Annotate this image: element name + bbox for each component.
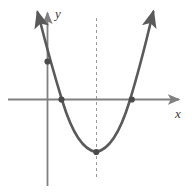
y-axis-label: y (53, 6, 61, 21)
graph-canvas: y x (0, 0, 192, 194)
parabola-figure: y x (0, 0, 192, 194)
curve-left-arm-arrow (38, 13, 41, 23)
point-root-left (58, 96, 64, 102)
point-vertex (93, 149, 99, 155)
parabola-curve (39, 16, 153, 153)
point-root-right (129, 96, 135, 102)
point-y-intercept (44, 58, 50, 64)
x-axis-label: x (174, 106, 181, 121)
curve-right-arm-arrow (150, 12, 153, 23)
